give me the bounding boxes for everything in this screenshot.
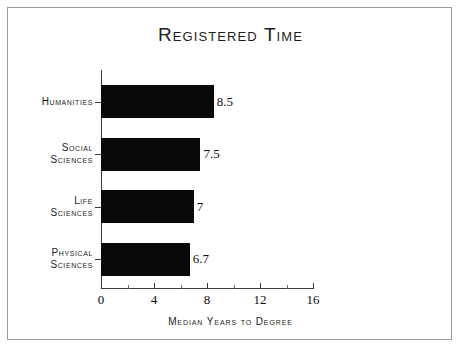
bar-value-label: 7 xyxy=(197,199,204,215)
y-axis-tick xyxy=(95,102,101,103)
x-axis-minor-tick xyxy=(287,285,288,289)
y-axis-label-line: Life xyxy=(5,195,93,207)
y-axis-label-line: Physical xyxy=(5,247,93,259)
x-axis-tick-label: 8 xyxy=(187,292,227,308)
bar xyxy=(101,85,214,118)
chart-title: Registered Time xyxy=(0,24,461,46)
y-axis-tick xyxy=(95,259,101,260)
x-axis-minor-tick xyxy=(128,285,129,289)
x-axis-minor-tick xyxy=(234,285,235,289)
y-axis-label-social-sciences: SocialSciences xyxy=(5,142,93,166)
bar-row: 8.5 xyxy=(101,85,313,118)
y-axis-label-line: Social xyxy=(5,142,93,154)
x-axis-tick-label: 0 xyxy=(81,292,121,308)
y-axis-label-line: Sciences xyxy=(5,207,93,219)
bar xyxy=(101,243,190,276)
bar-value-label: 6.7 xyxy=(193,251,209,267)
y-axis-label-life-sciences: LifeSciences xyxy=(5,195,93,219)
y-axis-label-line: Sciences xyxy=(5,259,93,271)
bar-value-label: 8.5 xyxy=(217,94,233,110)
bar-row: 7.5 xyxy=(101,138,313,171)
x-axis-tick-label: 4 xyxy=(134,292,174,308)
y-axis-label-physical-sciences: PhysicalSciences xyxy=(5,247,93,271)
x-axis-tick xyxy=(154,283,155,289)
y-axis-label-line: Humanities xyxy=(5,96,93,108)
bar-row: 7 xyxy=(101,190,313,223)
bar-row: 6.7 xyxy=(101,243,313,276)
x-axis-tick xyxy=(101,283,102,289)
bar-value-label: 7.5 xyxy=(203,146,219,162)
x-axis-tick-label: 12 xyxy=(240,292,280,308)
bar xyxy=(101,138,200,171)
y-axis-label-humanities: Humanities xyxy=(5,96,93,108)
x-axis-tick-label: 16 xyxy=(293,292,333,308)
x-axis-minor-tick xyxy=(181,285,182,289)
chart-figure: Registered Time 8.57.576.7 HumanitiesSoc… xyxy=(0,0,461,352)
plot-area: 8.57.576.7 xyxy=(101,70,313,288)
x-axis-tick xyxy=(207,283,208,289)
x-axis-tick xyxy=(313,283,314,289)
bar xyxy=(101,190,194,223)
y-axis-tick xyxy=(95,207,101,208)
x-axis-title: Median Years to Degree xyxy=(0,316,461,327)
y-axis-tick xyxy=(95,154,101,155)
y-axis-label-line: Sciences xyxy=(5,154,93,166)
x-axis-tick xyxy=(260,283,261,289)
